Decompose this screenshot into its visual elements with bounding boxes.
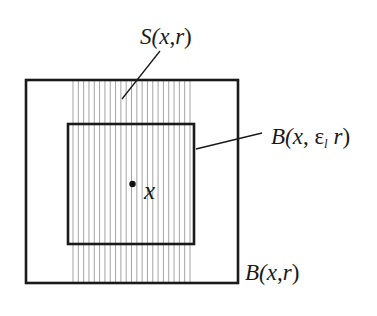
nested-squares-diagram: S(x,r) B(x, εl r) B(x,r) x xyxy=(0,0,377,316)
strip-label: S(x,r) xyxy=(140,24,192,49)
strip-leader-line xyxy=(122,51,160,99)
center-point xyxy=(129,181,135,187)
center-point-label: x xyxy=(143,177,155,204)
inner-square-label: B(x, εl r) xyxy=(271,124,350,151)
inner-leader-line xyxy=(196,133,262,149)
outer-square-label: B(x,r) xyxy=(245,260,299,285)
